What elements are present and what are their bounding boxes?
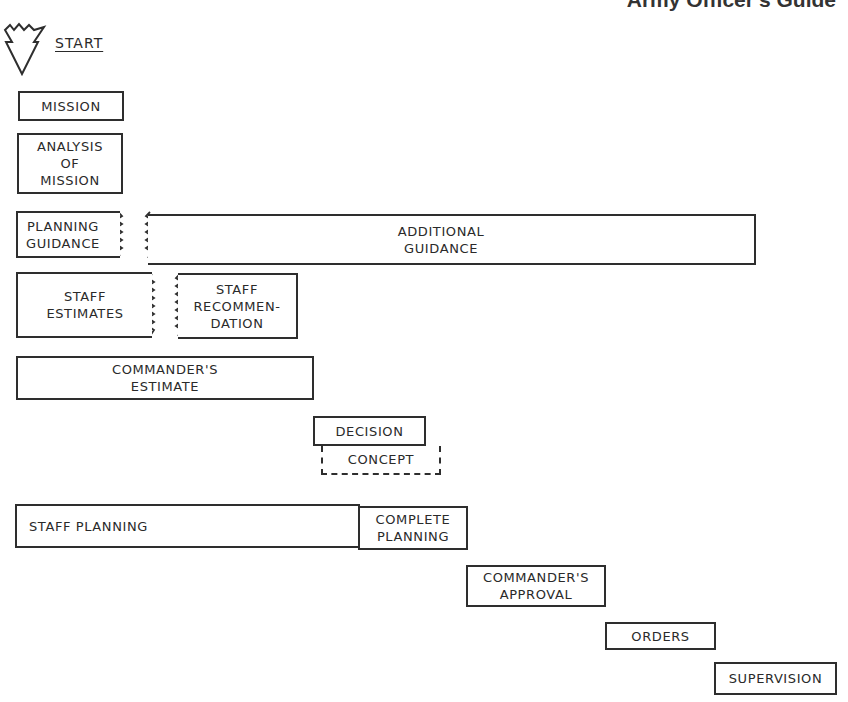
step-commanders-approval[interactable]: COMMANDER'S APPROVAL: [466, 565, 606, 607]
step-label: STAFF ESTIMATES: [46, 288, 123, 322]
step-orders[interactable]: ORDERS: [605, 622, 716, 650]
step-concept[interactable]: CONCEPT: [321, 446, 441, 475]
step-decision[interactable]: DECISION: [313, 416, 426, 446]
start-triangle-icon: [5, 24, 44, 74]
step-staff-estimates[interactable]: STAFF ESTIMATES: [16, 272, 152, 338]
step-additional-guidance[interactable]: ADDITIONAL GUIDANCE: [148, 214, 756, 265]
step-label: COMMANDER'S APPROVAL: [483, 569, 589, 603]
step-complete-planning[interactable]: COMPLETE PLANNING: [358, 506, 468, 550]
step-planning-guidance[interactable]: PLANNING GUIDANCE: [16, 211, 120, 258]
step-analysis-of-mission[interactable]: ANALYSIS OF MISSION: [17, 133, 123, 194]
step-label: ANALYSIS OF MISSION: [37, 138, 103, 189]
step-label: COMPLETE PLANNING: [376, 511, 451, 545]
start-label: START: [55, 35, 103, 51]
step-label: COMMANDER'S ESTIMATE: [112, 361, 218, 395]
step-commanders-estimate[interactable]: COMMANDER'S ESTIMATE: [16, 356, 314, 400]
connector-overlay: [0, 0, 848, 702]
step-label: SUPERVISION: [729, 670, 823, 687]
step-label: MISSION: [41, 98, 101, 115]
step-mission[interactable]: MISSION: [18, 91, 124, 121]
step-staff-planning[interactable]: STAFF PLANNING: [15, 504, 360, 548]
step-label: ADDITIONAL GUIDANCE: [392, 223, 491, 257]
step-label: STAFF RECOMMEN- DATION: [193, 281, 280, 332]
step-label: DECISION: [336, 423, 404, 440]
step-label: CONCEPT: [348, 451, 414, 468]
step-supervision[interactable]: SUPERVISION: [714, 662, 837, 695]
step-label: ORDERS: [631, 628, 689, 645]
step-label: PLANNING GUIDANCE: [26, 218, 100, 252]
step-staff-recommendation[interactable]: STAFF RECOMMEN- DATION: [178, 273, 298, 339]
page-header-title: Army Officer's Guide: [627, 0, 836, 12]
step-label: STAFF PLANNING: [29, 518, 148, 535]
